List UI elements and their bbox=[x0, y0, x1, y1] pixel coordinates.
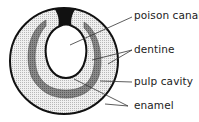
label-dentine: dentine bbox=[134, 43, 175, 55]
label-poison-canal: poison canal bbox=[134, 9, 199, 21]
label-enamel: enamel bbox=[134, 99, 174, 111]
label-pulp-cavity: pulp cavity bbox=[134, 75, 193, 87]
poison-canal-region bbox=[46, 25, 87, 79]
